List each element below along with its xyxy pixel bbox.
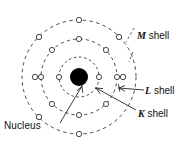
m-shell-symbol: M: [137, 30, 146, 41]
l-shell-word: shell: [151, 85, 174, 96]
k-shell-symbol: K: [138, 108, 145, 119]
electron: [32, 74, 37, 79]
nucleus-label: Nucleus: [4, 121, 41, 131]
electron: [49, 101, 54, 106]
m-shell-word: shell: [146, 30, 169, 41]
electron: [49, 47, 54, 52]
electron: [56, 74, 61, 79]
electron: [76, 112, 81, 117]
electron: [38, 74, 43, 79]
electron: [114, 74, 119, 79]
electron: [76, 131, 81, 136]
electron: [120, 74, 125, 79]
electron: [103, 47, 108, 52]
electron: [76, 17, 81, 22]
electron: [96, 74, 101, 79]
electron: [76, 36, 81, 41]
k-shell-arrow-line: [96, 88, 136, 110]
electron: [36, 114, 41, 119]
l-shell-arrow-tick: [119, 84, 120, 91]
nucleus: [70, 68, 88, 86]
m-shell-label: M shell: [137, 31, 169, 41]
atomic-shell-diagram: M shell L shell K shell Nucleus: [0, 0, 186, 147]
m-shell-leader: [126, 28, 134, 42]
l-shell-label: L shell: [145, 86, 174, 96]
k-shell-label: K shell: [138, 109, 168, 119]
electron: [103, 101, 108, 106]
k-shell-word: shell: [145, 108, 168, 119]
electron: [36, 34, 41, 39]
electron: [116, 34, 121, 39]
